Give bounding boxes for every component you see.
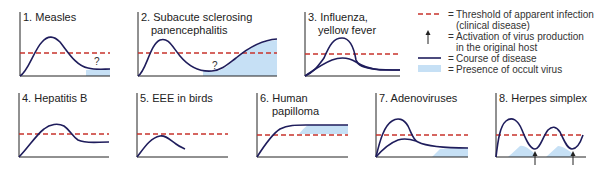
legend-activation-label-line-2: in the original host (456, 42, 537, 53)
panel-title: 2. Subacute sclerosing (141, 11, 252, 23)
disease-course-curve (496, 119, 583, 157)
legend-occult-label: Presence of occult virus (456, 64, 562, 75)
panel-title-line-2: yellow fever (318, 24, 376, 36)
legend-occult-symbol (418, 65, 441, 72)
panel-title: 6. Human (260, 92, 308, 104)
panel-5-eee-in-birds: 5. EEE in birds (137, 92, 228, 157)
panel-title-line-2: panencephalitis (151, 24, 228, 36)
disease-course-curve (137, 136, 185, 157)
legend-activation-label: Activation of virus production (456, 31, 584, 42)
question-mark: ? (94, 56, 100, 67)
occult-virus-area (432, 148, 468, 157)
legend-course-label: Course of disease (456, 53, 537, 64)
occult-virus-area-1 (508, 146, 534, 157)
panel-title: 4. Hepatitis B (22, 92, 87, 104)
legend-equals: = (448, 31, 454, 42)
legend-threshold-label-line-2: (clinical disease) (456, 20, 530, 31)
panel-title: 5. EEE in birds (140, 92, 213, 104)
virus-infection-patterns-diagram: ? 1. Measles ? 2. Subacute sclerosing pa… (0, 0, 603, 172)
panel-title: 1. Measles (23, 11, 77, 23)
panel-2-sspe: ? 2. Subacute sclerosing panencephalitis (138, 11, 277, 76)
legend-equals: = (448, 64, 454, 75)
panel-3-influenza-yellow-fever: 3. Influenza, yellow fever (305, 11, 400, 76)
occult-virus-area (299, 125, 348, 134)
panel-1-measles: ? 1. Measles (20, 11, 110, 76)
panel-4-hepatitis-b: 4. Hepatitis B (19, 92, 109, 157)
legend-equals: = (448, 53, 454, 64)
panel-7-adenoviruses: 7. Adenoviruses (376, 92, 468, 157)
legend-equals: = (448, 9, 454, 20)
panel-8-herpes-simplex: 8. Herpes simplex (496, 92, 588, 165)
panel-title: 3. Influenza, (308, 11, 368, 23)
question-mark: ? (212, 60, 218, 71)
legend-threshold-label: Threshold of apparent infection (456, 9, 594, 20)
panel-title-line-2: papilloma (272, 105, 320, 117)
panel-6-human-papilloma: 6. Human papilloma (257, 92, 348, 157)
panel-title: 8. Herpes simplex (499, 92, 588, 104)
legend: = Threshold of apparent infection (clini… (418, 9, 594, 75)
legend-arrow-icon (426, 30, 431, 44)
panel-title: 7. Adenoviruses (379, 92, 458, 104)
occult-virus-area (86, 69, 110, 76)
disease-course-curve-subclinical (305, 58, 400, 76)
disease-course-curve-subclinical (376, 139, 416, 157)
disease-course-curve (19, 124, 109, 157)
